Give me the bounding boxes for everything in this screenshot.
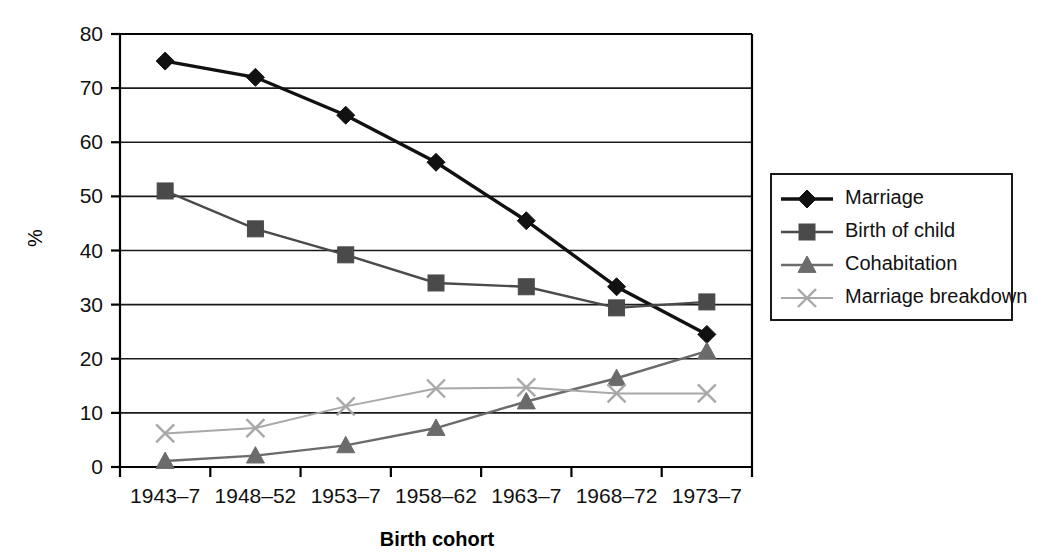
x-tick-label: 1958–62 bbox=[395, 484, 477, 507]
x-tick-label: 1968–72 bbox=[576, 484, 658, 507]
x-tick-marks bbox=[120, 467, 752, 477]
y-tick-labels: 01020304050607080 bbox=[80, 22, 120, 478]
data-point-marker-square bbox=[428, 275, 444, 291]
y-tick-label: 20 bbox=[80, 347, 103, 370]
data-point-marker-diamond bbox=[427, 153, 445, 171]
data-point-marker-square bbox=[247, 221, 263, 237]
line-chart: 01020304050607080 1943–71948–521953–7195… bbox=[0, 0, 1062, 559]
y-tick-label: 30 bbox=[80, 293, 103, 316]
x-tick-label: 1948–52 bbox=[215, 484, 297, 507]
legend-label: Marriage breakdown bbox=[845, 285, 1027, 307]
x-tick-label: 1943–7 bbox=[130, 484, 200, 507]
x-axis-title: Birth cohort bbox=[380, 528, 495, 550]
y-tick-label: 70 bbox=[80, 76, 103, 99]
data-point-marker-triangle bbox=[698, 342, 716, 358]
y-tick-label: 10 bbox=[80, 401, 103, 424]
y-tick-label: 80 bbox=[80, 22, 103, 45]
y-tick-label: 40 bbox=[80, 239, 103, 262]
data-point-marker-square bbox=[157, 183, 173, 199]
chart-container: 01020304050607080 1943–71948–521953–7195… bbox=[0, 0, 1062, 559]
y-tick-label: 0 bbox=[91, 455, 103, 478]
data-point-marker-square bbox=[338, 247, 354, 263]
series-line bbox=[165, 61, 707, 334]
data-point-marker-diamond bbox=[246, 68, 264, 86]
y-tick-label: 50 bbox=[80, 184, 103, 207]
series-line bbox=[165, 351, 707, 461]
legend: MarriageBirth of childCohabitationMarria… bbox=[771, 174, 1027, 320]
series-marriage bbox=[156, 52, 716, 343]
legend-label: Marriage bbox=[845, 186, 924, 208]
legend-label: Cohabitation bbox=[845, 252, 957, 274]
data-point-marker-diamond bbox=[156, 52, 174, 70]
data-point-marker-square bbox=[609, 300, 625, 316]
y-tick-label: 60 bbox=[80, 130, 103, 153]
data-series bbox=[156, 52, 716, 468]
x-tick-label: 1963–7 bbox=[491, 484, 561, 507]
x-tick-label: 1953–7 bbox=[311, 484, 381, 507]
x-tick-label: 1973–7 bbox=[672, 484, 742, 507]
legend-label: Birth of child bbox=[845, 219, 955, 241]
data-point-marker-square bbox=[799, 224, 815, 240]
data-point-marker-diamond bbox=[698, 325, 716, 343]
x-tick-labels: 1943–71948–521953–71958–621963–71968–721… bbox=[130, 484, 742, 507]
data-point-marker-square bbox=[518, 279, 534, 295]
gridlines bbox=[120, 34, 752, 413]
data-point-marker-square bbox=[699, 294, 715, 310]
y-axis-title: % bbox=[24, 229, 46, 247]
data-point-marker-diamond bbox=[337, 106, 355, 124]
series-cohabitation bbox=[156, 342, 716, 468]
